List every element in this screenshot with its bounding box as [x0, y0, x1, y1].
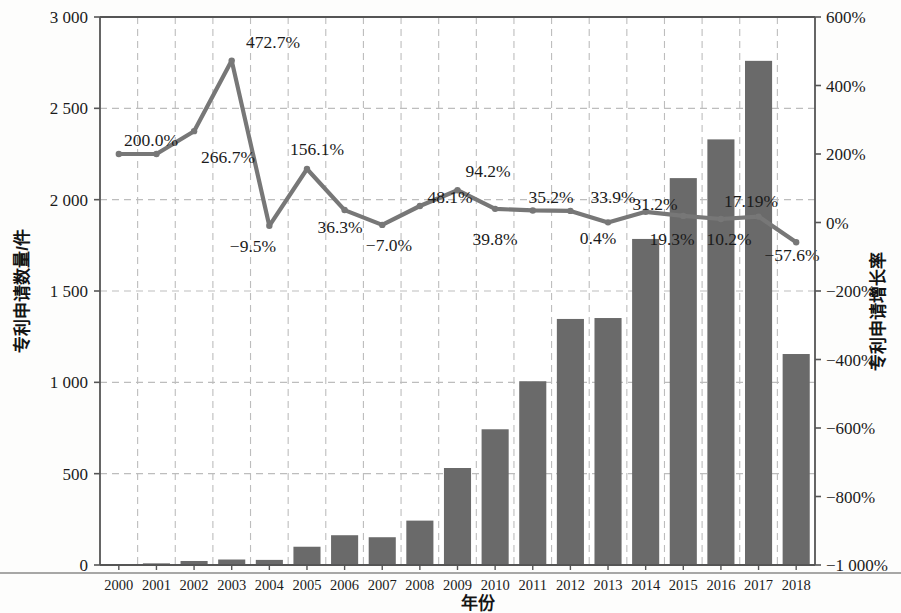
y-tick-label-left: 2 000 [50, 191, 88, 210]
data-label: −57.6% [764, 245, 819, 265]
y-axis-right-title: 专利申请增长率 [868, 252, 888, 371]
data-label: 33.9% [590, 187, 635, 207]
line-data-point[interactable] [341, 207, 347, 213]
x-tick-label: 2014 [631, 577, 661, 593]
line-data-point[interactable] [304, 166, 310, 172]
data-label: 19.3% [649, 229, 694, 249]
bar[interactable] [331, 535, 358, 565]
bar[interactable] [519, 381, 546, 565]
data-label: 94.2% [465, 161, 510, 181]
x-tick-label: 2002 [180, 577, 209, 593]
data-label: −7.0% [366, 235, 412, 255]
x-tick-label: 2001 [142, 577, 171, 593]
line-data-point[interactable] [417, 203, 423, 209]
y-tick-label-right: 0% [826, 214, 849, 233]
y-tick-label-left: 1 000 [50, 373, 88, 392]
x-tick-label: 2015 [669, 577, 698, 593]
line-data-point[interactable] [492, 206, 498, 212]
line-data-point[interactable] [567, 208, 573, 214]
bar[interactable] [745, 61, 772, 565]
bar[interactable] [293, 547, 320, 565]
line-data-point[interactable] [116, 151, 122, 157]
data-label: 200.0% [124, 130, 178, 150]
x-tick-label: 2004 [255, 577, 285, 593]
y-tick-label-right: −400% [826, 351, 875, 370]
patent-application-combo-chart: 200.0%266.7%472.7%−9.5%156.1%36.3%−7.0%4… [0, 0, 901, 613]
bar[interactable] [444, 468, 471, 565]
y-axis-left-title: 专利申请数量/件 [12, 229, 32, 353]
y-tick-label-right: 200% [826, 145, 866, 164]
x-tick-label: 2017 [744, 577, 773, 593]
x-tick-label: 2009 [443, 577, 472, 593]
y-tick-label-right: 400% [826, 77, 866, 96]
data-label: 48.1% [427, 187, 472, 207]
data-label: 0.4% [580, 228, 616, 248]
bar[interactable] [783, 354, 810, 565]
x-tick-label: 2010 [481, 577, 510, 593]
x-tick-label: 2006 [330, 577, 359, 593]
bar[interactable] [369, 537, 396, 565]
bar[interactable] [482, 429, 509, 565]
y-tick-label-left: 1 500 [50, 282, 88, 301]
chart-container: 200.0%266.7%472.7%−9.5%156.1%36.3%−7.0%4… [0, 0, 901, 613]
x-tick-label: 2012 [556, 577, 585, 593]
data-label: 266.7% [201, 147, 255, 167]
x-tick-label: 2016 [706, 577, 735, 593]
line-data-point[interactable] [229, 57, 235, 63]
x-tick-label: 2008 [405, 577, 434, 593]
y-tick-label-right: −1 000% [826, 556, 888, 575]
bar[interactable] [406, 521, 433, 565]
y-tick-label-right: −800% [826, 488, 875, 507]
bar[interactable] [632, 239, 659, 565]
data-label: 31.2% [632, 194, 677, 214]
x-tick-label: 2013 [594, 577, 623, 593]
x-tick-label: 2007 [368, 577, 397, 593]
line-data-point[interactable] [191, 128, 197, 134]
x-axis-ticks: 2000200120022003200420052006200720082009… [104, 565, 810, 593]
x-axis-title: 年份 [461, 593, 496, 613]
y-tick-label-left: 3 000 [50, 8, 88, 27]
y-tick-label-right: −600% [826, 419, 875, 438]
data-label: 36.3% [317, 217, 362, 237]
data-label: 472.7% [246, 32, 300, 52]
bar[interactable] [594, 318, 621, 565]
y-tick-label-right: −200% [826, 282, 875, 301]
data-label: 35.2% [528, 187, 573, 207]
line-data-point[interactable] [680, 213, 686, 219]
y-tick-label-left: 0 [80, 556, 89, 575]
x-tick-label: 2018 [782, 577, 811, 593]
line-data-point[interactable] [755, 213, 761, 219]
x-tick-label: 2000 [104, 577, 133, 593]
x-tick-label: 2011 [519, 577, 547, 593]
data-label: 39.8% [472, 229, 517, 249]
y-tick-label-left: 2 500 [50, 99, 88, 118]
line-data-point[interactable] [530, 207, 536, 213]
line-data-point[interactable] [153, 151, 159, 157]
line-data-point[interactable] [718, 216, 724, 222]
data-label: 17.19% [724, 191, 778, 211]
y-tick-label-right: 600% [826, 8, 866, 27]
bar[interactable] [557, 319, 584, 565]
y-axis-left-ticks: 05001 0001 5002 0002 5003 000 [50, 8, 100, 575]
line-data-point[interactable] [605, 219, 611, 225]
x-tick-label: 2003 [217, 577, 246, 593]
line-data-point[interactable] [266, 223, 272, 229]
y-tick-label-left: 500 [63, 465, 89, 484]
data-label: 10.2% [706, 229, 751, 249]
data-label: −9.5% [230, 236, 276, 256]
x-tick-label: 2005 [292, 577, 321, 593]
data-label: 156.1% [290, 139, 344, 159]
line-data-point[interactable] [379, 222, 385, 228]
